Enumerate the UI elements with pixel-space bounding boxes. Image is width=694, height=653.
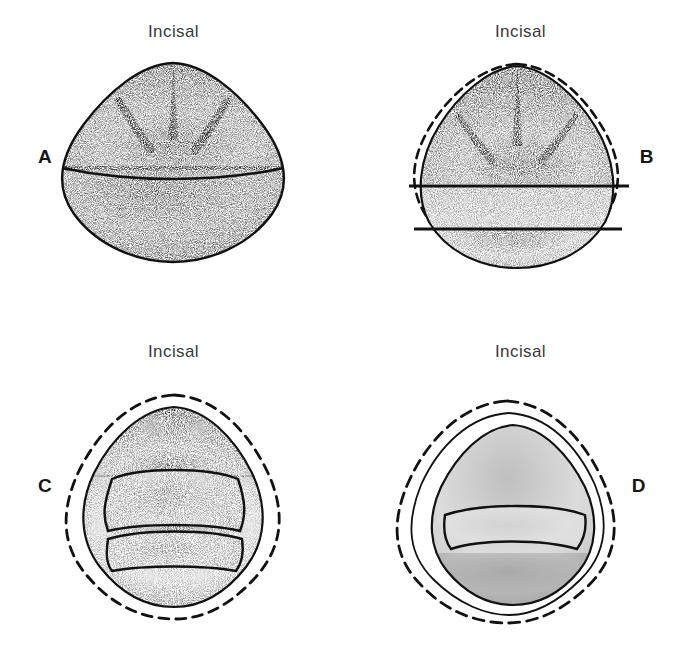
panel-b-illustration <box>347 0 694 326</box>
panel-d: Incisal D <box>347 327 694 653</box>
panel-a: Incisal A <box>0 0 347 326</box>
panel-c: Incisal C <box>0 327 347 653</box>
figure-tooth-preparation-incisal-views: Incisal A <box>0 0 694 653</box>
panel-b: Incisal B <box>347 0 694 326</box>
panel-c-illustration <box>0 327 347 653</box>
panel-d-illustration <box>347 327 694 653</box>
panel-a-illustration <box>0 0 347 326</box>
